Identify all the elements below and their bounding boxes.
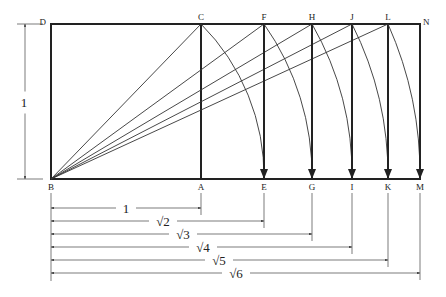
arc-HI xyxy=(312,24,352,179)
point-label-D: D xyxy=(40,17,47,27)
point-label-K: K xyxy=(385,182,392,192)
point-label-A: A xyxy=(198,182,205,192)
point-label-G: G xyxy=(309,182,316,192)
point-label-N: N xyxy=(423,17,430,27)
dimension-lines: 11√2√3√4√5√6 xyxy=(17,24,420,281)
point-label-L: L xyxy=(385,12,391,22)
point-label-I: I xyxy=(351,182,354,192)
point-label-E: E xyxy=(261,182,267,192)
hdim-label-2: √3 xyxy=(176,227,190,242)
diagonal-BF xyxy=(51,24,264,179)
arc-LM xyxy=(388,24,420,179)
outer-rectangle xyxy=(51,24,420,179)
arc-FG xyxy=(264,24,312,179)
arc-JK xyxy=(352,24,388,179)
hdim-label-4: √5 xyxy=(212,253,226,268)
point-label-B: B xyxy=(48,182,54,192)
diagonal-BL xyxy=(51,24,388,179)
construction-lines xyxy=(51,24,420,179)
hdim-label-3: √4 xyxy=(196,240,210,255)
root-rectangles-diagram: DCFHJLNBAEGIKM 11√2√3√4√5√6 xyxy=(0,0,446,297)
point-label-J: J xyxy=(350,12,354,22)
diagonal-BC xyxy=(51,24,201,179)
vdim-label: 1 xyxy=(21,95,28,110)
hdim-label-0: 1 xyxy=(123,201,130,216)
point-labels: DCFHJLNBAEGIKM xyxy=(40,12,431,192)
diagonal-BH xyxy=(51,24,312,179)
point-label-M: M xyxy=(416,182,424,192)
hdim-label-1: √2 xyxy=(156,214,170,229)
point-label-C: C xyxy=(198,12,204,22)
point-label-H: H xyxy=(309,12,316,22)
point-label-F: F xyxy=(261,12,266,22)
hdim-label-5: √6 xyxy=(229,266,243,281)
diagram-canvas: DCFHJLNBAEGIKM 11√2√3√4√5√6 xyxy=(0,0,446,297)
